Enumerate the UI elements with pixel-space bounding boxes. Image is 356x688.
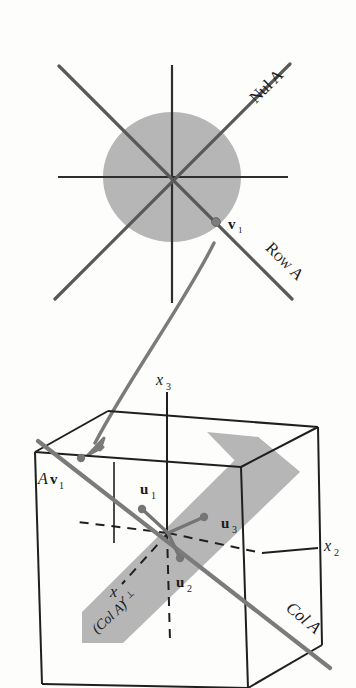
label-av1-matrix: A	[37, 470, 48, 487]
label-x1-symbol: x	[109, 583, 117, 600]
mapping-arrow-curve	[95, 243, 214, 443]
label-u3-symbol: u	[221, 515, 229, 531]
top-panel: Nul A Row A v 1	[55, 64, 308, 303]
label-x2: x 2	[323, 537, 339, 558]
label-v1-symbol: v	[228, 216, 236, 232]
label-u2-subscript: 2	[187, 583, 192, 594]
label-col-a-text: Col A	[283, 598, 325, 638]
label-u3-subscript: 3	[232, 524, 237, 535]
label-x2-subscript: 2	[334, 547, 339, 558]
svd-geometry-figure: Nul A Row A v 1	[0, 0, 356, 688]
label-x3-subscript: 3	[166, 381, 171, 392]
v1-point	[212, 218, 221, 227]
axis-x2-solid	[262, 548, 318, 553]
label-u1-symbol: u	[140, 481, 148, 497]
label-av1-vector: v	[50, 471, 58, 487]
av1-point	[77, 454, 85, 462]
label-x3: x 3	[155, 371, 171, 392]
cube-edge-back-right-vertical	[318, 427, 322, 645]
label-u1-subscript: 1	[151, 490, 156, 501]
label-u1: u 1	[140, 481, 156, 501]
label-x3-symbol: x	[155, 371, 163, 388]
u2-point	[176, 554, 184, 562]
label-col-a: Col A	[283, 598, 325, 638]
bottom-panel: x 3 x 2 x 1 A v 1 u 1 u 2	[35, 371, 339, 688]
label-u2-symbol: u	[176, 574, 184, 590]
label-av1-subscript: 1	[59, 480, 64, 491]
cube-edge-top-back	[108, 411, 318, 427]
label-av1: A v 1	[37, 470, 64, 491]
cube-edge-front-bottom	[42, 684, 248, 688]
label-v1: v 1	[228, 216, 243, 235]
label-x2-symbol: x	[323, 537, 331, 554]
label-v1-subscript: 1	[238, 225, 243, 235]
u1-point	[138, 505, 146, 513]
u3-point	[200, 513, 208, 521]
mapping-arrow	[88, 243, 214, 455]
